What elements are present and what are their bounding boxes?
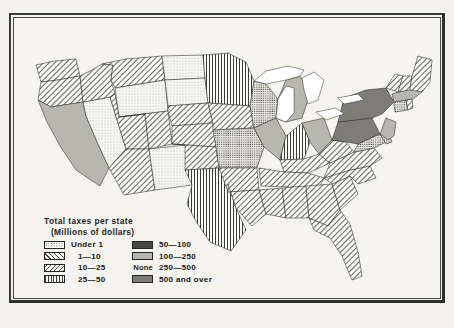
state-ME xyxy=(410,56,432,92)
legend-item: Under 1 xyxy=(44,239,118,251)
legend-swatch-100-250 xyxy=(132,252,153,260)
legend-swatch-500-over xyxy=(132,275,153,283)
legend-subtitle: (Millions of dollars) xyxy=(44,227,259,238)
legend-none-label: None xyxy=(132,264,153,272)
legend-swatch-10-25 xyxy=(44,264,65,272)
figure-page: Total taxes per state (Millions of dolla… xyxy=(0,0,454,328)
legend-label: 1—10 xyxy=(71,252,118,261)
state-SD xyxy=(165,78,208,106)
legend-label: Under 1 xyxy=(71,240,111,249)
legend-item: 50—100 xyxy=(132,239,212,251)
legend-label: 250—500 xyxy=(159,263,196,272)
state-KS xyxy=(172,123,216,147)
legend-swatch-50-100 xyxy=(132,241,153,249)
legend-item: None 250—500 xyxy=(132,262,212,274)
legend-column-left: Under 1 1—10 10—25 25—50 xyxy=(44,239,118,285)
legend-swatch-1-10 xyxy=(44,252,65,260)
legend-label: 25—50 xyxy=(71,275,118,284)
state-ND xyxy=(162,55,205,80)
state-IA xyxy=(208,103,254,130)
legend-swatch-under-1 xyxy=(44,241,65,249)
state-MN xyxy=(203,53,254,106)
legend-item: 100—250 xyxy=(132,251,212,263)
legend-label: 100—250 xyxy=(159,252,196,261)
state-MO xyxy=(213,128,264,168)
legend-label: 50—100 xyxy=(159,240,191,249)
legend-item: 10—25 xyxy=(44,262,118,274)
state-ID xyxy=(80,64,115,102)
legend-title: Total taxes per state xyxy=(44,216,259,227)
map-legend: Total taxes per state (Millions of dolla… xyxy=(44,216,259,285)
state-NY xyxy=(338,88,394,122)
state-AL xyxy=(282,186,309,218)
legend-label: 500 and over xyxy=(159,275,212,284)
legend-item: 500 and over xyxy=(132,274,212,286)
legend-swatch-25-50 xyxy=(44,275,65,283)
legend-item: 1—10 xyxy=(44,251,118,263)
legend-label: 10—25 xyxy=(71,263,118,272)
state-NE xyxy=(168,103,213,126)
legend-column-right: 50—100 100—250 None 250—500 500 and over xyxy=(132,239,212,285)
legend-item: 25—50 xyxy=(44,274,118,286)
